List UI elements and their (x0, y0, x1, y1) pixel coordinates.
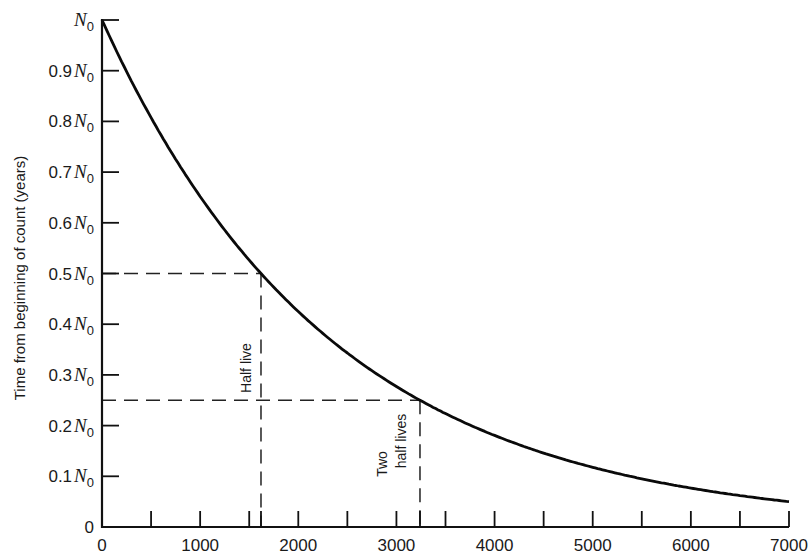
y-tick-label: 0.6N0 (48, 212, 94, 237)
x-tick-label: 5000 (574, 536, 612, 555)
y-axis-title: Time from beginning of count (years) (11, 156, 28, 401)
two-half-lives-label-line1: Two (374, 451, 390, 477)
y-tick-label: 0.3N0 (48, 364, 94, 389)
x-tick-label: 2000 (279, 536, 317, 555)
y-tick-label: N0 (73, 9, 94, 34)
half-life-label: Half live (238, 343, 254, 393)
y-ticks: N00.9N00.8N00.7N00.6N00.5N00.4N00.3N00.2… (48, 9, 119, 537)
x-tick-label: 3000 (378, 536, 416, 555)
x-tick-label: 6000 (672, 536, 710, 555)
decay-curve-layer (102, 20, 789, 502)
y-tick-label: 0.4N0 (48, 313, 94, 338)
annotation-layer (102, 274, 420, 528)
decay-chart: Time from beginning of count (years) N00… (0, 0, 811, 559)
y-tick-label: 0.9N0 (48, 60, 94, 85)
y-tick-label: 0.7N0 (48, 161, 94, 186)
decay-curve (102, 20, 789, 502)
y-tick-label: 0 (85, 518, 94, 537)
y-axis-label: Time from beginning of count (years) (11, 156, 28, 401)
x-ticks: 01000200030004000500060007000 (97, 511, 808, 555)
y-tick-label: 0.8N0 (48, 110, 94, 135)
y-tick-label: 0.5N0 (48, 263, 94, 288)
annotation-labels: Half live Two half lives (238, 343, 409, 477)
x-tick-label: 1000 (181, 536, 219, 555)
x-tick-label: 0 (97, 536, 106, 555)
x-tick-label: 7000 (770, 536, 808, 555)
x-tick-label: 4000 (476, 536, 514, 555)
axes (101, 19, 789, 528)
y-tick-label: 0.1N0 (48, 465, 94, 490)
y-tick-label: 0.2N0 (48, 415, 94, 440)
two-half-lives-label-line2: half lives (393, 414, 409, 468)
